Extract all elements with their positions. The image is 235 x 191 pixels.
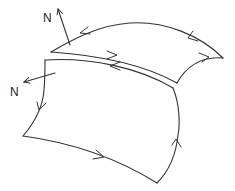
upper-normal-label: N	[43, 11, 52, 25]
upper-surface: N	[43, 9, 223, 83]
upper-surface-right-edge	[177, 58, 223, 83]
lower-surface: N	[10, 60, 181, 183]
upper-normal-vector	[58, 9, 70, 45]
lower-normal-vector	[24, 73, 55, 82]
lower-normal-label: N	[10, 85, 19, 99]
lower-surface-right-edge	[157, 88, 179, 183]
lower-surface-top-edge	[45, 60, 173, 88]
surface-orientation-diagram: N N	[0, 0, 235, 191]
upper-bottom-edge-arrow-icon	[107, 51, 117, 59]
lower-surface-bottom-edge	[23, 136, 157, 183]
lower-surface-left-edge	[23, 60, 45, 136]
